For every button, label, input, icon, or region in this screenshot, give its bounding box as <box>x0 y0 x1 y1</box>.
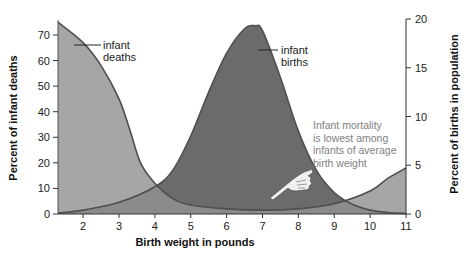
x-tick-label: 6 <box>224 220 230 232</box>
y-left-tick-label: 60 <box>38 55 50 67</box>
mortality-note: infants of average <box>313 144 397 156</box>
y-left-tick-label: 20 <box>38 157 50 169</box>
mortality-note: Infant mortality <box>313 119 383 131</box>
x-tick-label: 11 <box>400 220 411 232</box>
y-right-tick-label: 10 <box>415 111 427 123</box>
mortality-note: birth weight <box>313 157 367 169</box>
infant-births-label: infant <box>281 44 308 56</box>
y-left-tick-label: 50 <box>38 80 50 92</box>
y-left-tick-label: 10 <box>38 182 50 194</box>
y-right-tick-label: 15 <box>415 62 427 74</box>
y-right-axis-title: Percent of births in population <box>448 34 460 194</box>
y-right-tick-label: 5 <box>415 159 421 171</box>
y-left-axis-title: Percent of infant deaths <box>7 55 19 180</box>
x-tick-label: 10 <box>364 220 376 232</box>
x-tick-label: 3 <box>116 220 122 232</box>
infant-births-label: births <box>281 56 308 68</box>
x-tick-label: 7 <box>259 220 265 232</box>
x-tick-label: 2 <box>80 220 86 232</box>
x-tick-label: 5 <box>188 220 194 232</box>
y-left-tick-label: 0 <box>44 208 50 220</box>
x-tick-label: 4 <box>152 220 158 232</box>
mortality-note: is lowest among <box>313 132 388 144</box>
x-tick-label: 9 <box>331 220 337 232</box>
y-left-tick-label: 40 <box>38 106 50 118</box>
x-axis-title: Birth weight in pounds <box>135 236 254 248</box>
chart: 23456789101101020304050607005101520Birth… <box>0 0 468 264</box>
y-right-tick-label: 20 <box>415 13 427 25</box>
x-tick-label: 8 <box>295 220 301 232</box>
y-right-tick-label: 0 <box>415 208 421 220</box>
y-left-tick-label: 30 <box>38 131 50 143</box>
y-left-tick-label: 70 <box>38 29 50 41</box>
infant-deaths-label: deaths <box>103 51 137 63</box>
infant-deaths-label: infant <box>103 39 130 51</box>
